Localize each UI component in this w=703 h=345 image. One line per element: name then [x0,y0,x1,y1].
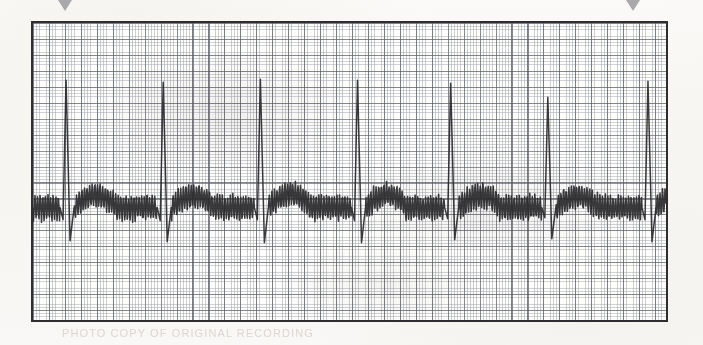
ecg-waveform-path [33,79,666,243]
caption-ghost-text: PHOTO COPY OF ORIGINAL RECORDING [62,327,662,341]
ecg-strip-inner [33,23,666,320]
ecg-page: PHOTO COPY OF ORIGINAL RECORDING [0,0,703,345]
beat-marker-2 [626,0,640,11]
ecg-strip-frame [31,21,668,322]
ecg-trace-svg [33,23,666,320]
beat-marker-1 [58,0,72,11]
